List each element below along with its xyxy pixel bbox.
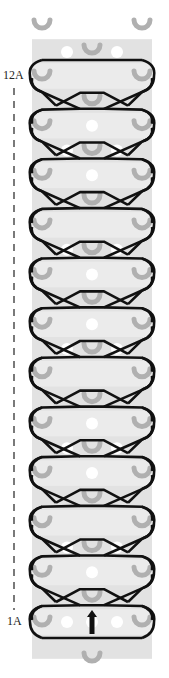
hole-icon: [61, 616, 73, 628]
loom-diagram: [0, 0, 169, 678]
hole-icon: [86, 566, 98, 578]
hole-icon: [86, 120, 98, 132]
row-label-bottom: 1A: [7, 614, 22, 629]
hole-icon: [86, 467, 98, 479]
hole-icon: [86, 269, 98, 281]
hole-icon: [111, 46, 123, 58]
peg-icon: [34, 20, 50, 28]
row-label-top: 12A: [3, 68, 24, 83]
hole-icon: [86, 169, 98, 181]
hole-icon: [111, 616, 123, 628]
hole-icon: [61, 46, 73, 58]
peg-icon: [134, 20, 150, 28]
hole-icon: [86, 417, 98, 429]
hole-icon: [86, 318, 98, 330]
